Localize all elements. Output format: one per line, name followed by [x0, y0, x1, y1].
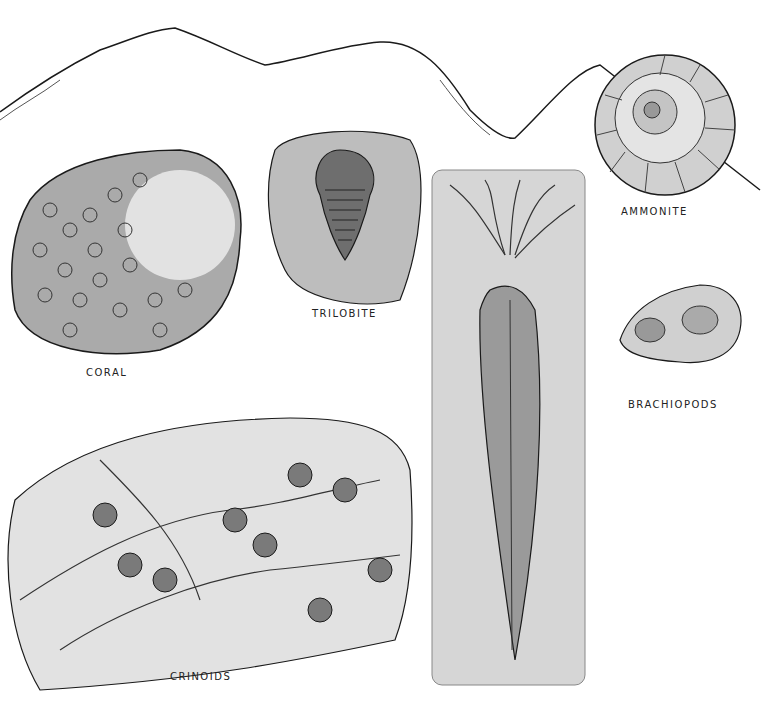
trilobite-label: TRILOBITE	[312, 308, 377, 319]
fossil-illustration	[0, 0, 769, 705]
crinoids-fossil	[8, 418, 412, 690]
coral-fossil	[12, 150, 241, 354]
ammonite-fossil	[595, 55, 735, 195]
trilobite-fossil	[268, 131, 420, 303]
brachiopods-fossil	[620, 285, 741, 363]
ammonite-label: AMMONITE	[621, 206, 688, 217]
brachiopods-label: BRACHIOPODS	[628, 399, 718, 410]
belemnite-fossil	[432, 170, 585, 685]
coral-label: CORAL	[86, 367, 127, 378]
crinoids-label: CRINOIDS	[170, 671, 231, 682]
